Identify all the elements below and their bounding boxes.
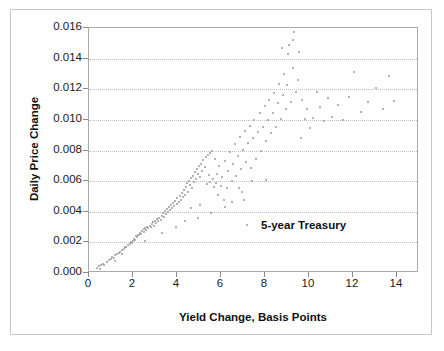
scatter-point xyxy=(206,183,208,185)
scatter-point xyxy=(255,158,257,160)
gridline-y xyxy=(89,89,417,90)
scatter-point xyxy=(309,127,311,129)
y-tick-mark xyxy=(83,58,88,59)
scatter-point xyxy=(213,186,215,188)
scatter-point xyxy=(176,203,178,205)
scatter-point xyxy=(145,229,147,231)
scatter-point xyxy=(244,130,246,132)
gridline-y xyxy=(89,242,417,243)
scatter-point xyxy=(316,91,318,93)
scatter-point xyxy=(215,182,217,184)
scatter-point xyxy=(162,212,164,214)
y-tick-mark xyxy=(83,150,88,151)
scatter-point xyxy=(144,240,146,242)
scatter-point xyxy=(189,184,191,186)
scatter-point xyxy=(239,136,241,138)
scatter-point xyxy=(121,253,123,255)
scatter-point xyxy=(240,168,242,170)
scatter-point xyxy=(242,149,244,151)
scatter-point xyxy=(245,161,247,163)
y-tick-mark xyxy=(83,27,88,28)
scatter-point xyxy=(218,165,220,167)
scatter-point xyxy=(297,79,299,81)
scatter-point xyxy=(237,155,239,157)
x-tick-label: 6 xyxy=(205,278,235,290)
scatter-point xyxy=(265,140,267,142)
scatter-point xyxy=(110,258,112,260)
scatter-point xyxy=(293,31,295,33)
y-tick-mark xyxy=(83,211,88,212)
scatter-point xyxy=(170,204,172,206)
scatter-point xyxy=(283,73,285,75)
y-tick-label: 0.006 xyxy=(34,174,82,186)
gridline-y xyxy=(89,59,417,60)
scatter-point xyxy=(186,182,188,184)
gridline-y xyxy=(89,151,417,152)
scatter-point xyxy=(221,176,223,178)
scatter-point xyxy=(277,102,279,104)
scatter-point xyxy=(226,187,228,189)
scatter-point xyxy=(99,268,101,270)
y-tick-label: 0.000 xyxy=(34,266,82,278)
scatter-point xyxy=(193,181,195,183)
legend-marker-icon xyxy=(246,224,248,226)
scatter-point xyxy=(157,220,159,222)
scatter-point xyxy=(199,176,201,178)
scatter-point xyxy=(155,222,157,224)
x-tick-label: 14 xyxy=(381,278,411,290)
y-axis-tick-labels: 0.0000.0020.0040.0060.0080.0100.0120.014… xyxy=(30,0,82,351)
y-tick-label: 0.004 xyxy=(34,205,82,217)
scatter-point xyxy=(150,226,152,228)
scatter-point xyxy=(282,94,284,96)
scatter-point xyxy=(199,204,201,206)
scatter-point xyxy=(235,175,237,177)
scatter-point xyxy=(232,163,234,165)
scatter-point xyxy=(286,84,288,86)
scatter-point xyxy=(260,150,262,152)
scatter-point xyxy=(278,83,280,85)
scatter-point xyxy=(179,195,181,197)
scatter-point xyxy=(200,163,202,165)
scatter-point xyxy=(212,178,214,180)
scatter-point xyxy=(208,174,210,176)
scatter-point xyxy=(257,131,259,133)
scatter-point xyxy=(184,194,186,196)
scatter-point xyxy=(204,166,206,168)
scatter-point xyxy=(197,173,199,175)
scatter-point xyxy=(220,185,222,187)
scatter-point xyxy=(125,246,127,248)
scatter-point xyxy=(262,126,264,128)
scatter-point xyxy=(272,112,274,114)
scatter-point xyxy=(250,167,252,169)
y-tick-mark xyxy=(83,180,88,181)
scatter-point xyxy=(161,232,163,234)
scatter-point xyxy=(175,226,177,228)
scatter-point xyxy=(113,257,115,259)
scatter-point xyxy=(176,197,178,199)
scatter-point xyxy=(167,211,169,213)
scatter-point xyxy=(227,170,229,172)
scatter-point xyxy=(209,152,211,154)
x-tick-label: 2 xyxy=(117,278,147,290)
scatter-point xyxy=(360,111,362,113)
y-tick-label: 0.008 xyxy=(34,144,82,156)
scatter-point xyxy=(196,168,198,170)
scatter-point xyxy=(231,201,233,203)
scatter-point xyxy=(181,192,183,194)
scatter-point xyxy=(304,118,306,120)
scatter-point xyxy=(270,132,272,134)
scatter-point xyxy=(306,108,308,110)
scatter-point xyxy=(136,236,138,238)
scatter-point xyxy=(224,160,226,162)
scatter-point xyxy=(292,67,294,69)
scatter-point xyxy=(301,99,303,101)
scatter-point xyxy=(100,264,102,266)
scatter-point xyxy=(367,101,369,103)
scatter-point xyxy=(210,212,212,214)
scatter-point xyxy=(290,101,292,103)
scatter-point xyxy=(259,112,261,114)
scatter-point xyxy=(231,180,233,182)
y-tick-mark xyxy=(83,119,88,120)
scatter-point xyxy=(169,209,171,211)
scatter-point xyxy=(273,92,275,94)
